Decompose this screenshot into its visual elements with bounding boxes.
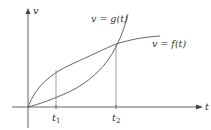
curve-f-label: v = f(t) — [152, 38, 186, 49]
x-axis-label: t — [205, 101, 210, 112]
x-axis-arrow-icon — [196, 105, 203, 110]
graph-canvas: v t t1 t2 v = g(t) v = f(t) — [0, 0, 211, 130]
curve-f — [28, 36, 160, 107]
y-axis-label: v — [33, 5, 39, 16]
curve-g-label: v = g(t) — [91, 13, 128, 24]
t1-label: t1 — [52, 112, 61, 125]
curve-g — [28, 14, 128, 107]
y-axis-arrow-icon — [26, 8, 31, 14]
t2-label: t2 — [112, 112, 121, 125]
